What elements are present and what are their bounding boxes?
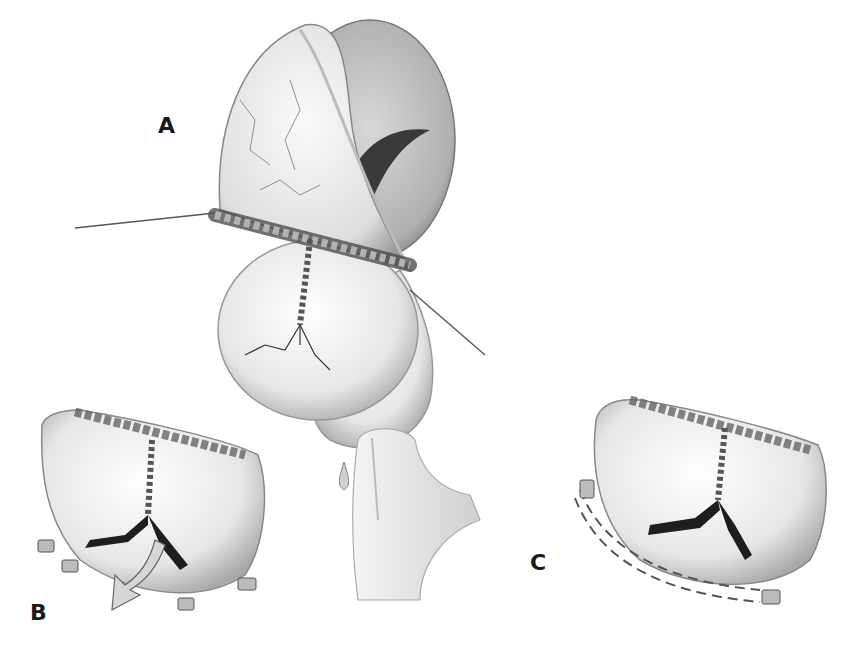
- panel-label-b: B: [30, 600, 47, 625]
- surgical-illustration: A B C: [0, 0, 862, 646]
- panel-label-c: C: [530, 550, 546, 575]
- panel-a-graphic: [75, 20, 485, 448]
- nozzle-instrument-graphic: [339, 429, 480, 600]
- panel-b-graphic: [38, 410, 264, 610]
- illustration-graphic: [0, 0, 862, 646]
- panel-label-a: A: [158, 113, 175, 138]
- panel-c-graphic: [575, 400, 826, 604]
